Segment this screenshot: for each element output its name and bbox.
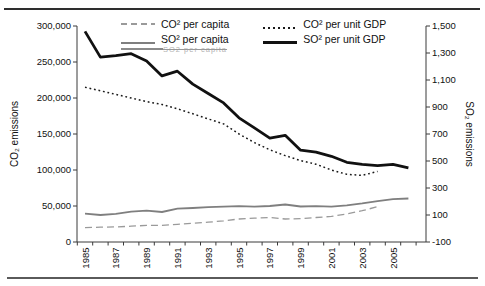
svg-text:1,500: 1,500 [432, 20, 456, 31]
svg-text:1993: 1993 [203, 248, 214, 269]
svg-text:300,000: 300,000 [37, 20, 71, 31]
legend-label: CO² per unit GDP [303, 18, 386, 30]
svg-text:1991: 1991 [172, 248, 183, 269]
svg-text:250,000: 250,000 [37, 56, 71, 67]
svg-text:900: 900 [432, 101, 448, 112]
right-axis-title: SO₂ emissions [464, 101, 475, 167]
svg-text:-100: -100 [432, 236, 451, 247]
svg-text:2001: 2001 [326, 248, 337, 269]
chart-legend: CO² per capita SO² per capita SO2 per ca… [121, 16, 386, 54]
bottom-border-line [7, 277, 478, 279]
svg-text:200,000: 200,000 [37, 92, 71, 103]
svg-text:2003: 2003 [357, 248, 368, 269]
svg-text:300: 300 [432, 182, 448, 193]
svg-text:1987: 1987 [110, 248, 121, 269]
legend-item-hidden: SO2 per capita [121, 44, 229, 54]
legend-item-so2-per-unit-gdp: SO² per unit GDP [263, 31, 386, 46]
gray-line-marker-icon [121, 48, 163, 50]
dotted-line-marker-icon [263, 27, 297, 29]
svg-text:1995: 1995 [234, 248, 245, 269]
figure-page: 300,000250,000200,000150,000100,00050,00… [0, 0, 485, 286]
legend-item-co2-per-capita: CO² per capita [121, 16, 229, 31]
svg-text:2005: 2005 [388, 248, 399, 269]
gray-line-marker-icon [121, 42, 155, 44]
svg-text:500: 500 [432, 155, 448, 166]
legend-label: SO² per unit GDP [303, 33, 385, 45]
svg-text:50,000: 50,000 [42, 200, 71, 211]
legend-column-per-capita: CO² per capita SO² per capita SO2 per ca… [121, 16, 229, 54]
svg-text:100: 100 [432, 209, 448, 220]
svg-text:1985: 1985 [80, 248, 91, 269]
svg-text:1999: 1999 [295, 248, 306, 269]
svg-text:150,000: 150,000 [37, 128, 71, 139]
legend-label: SO² per capita [161, 33, 229, 45]
svg-text:1,300: 1,300 [432, 47, 456, 58]
svg-text:0: 0 [66, 236, 71, 247]
svg-text:700: 700 [432, 128, 448, 139]
svg-text:1,100: 1,100 [432, 74, 456, 85]
legend-label: CO² per capita [161, 18, 229, 30]
left-axis-title: CO₂ emissions [9, 101, 20, 167]
legend-column-per-unit-gdp: CO² per unit GDP SO² per unit GDP [263, 16, 386, 54]
legend-label-struck: SO2 per capita [163, 45, 227, 54]
svg-text:1989: 1989 [141, 248, 152, 269]
dashed-line-marker-icon [121, 23, 155, 25]
svg-text:100,000: 100,000 [37, 164, 71, 175]
svg-text:1997: 1997 [264, 248, 275, 269]
legend-item-co2-per-unit-gdp: CO² per unit GDP [263, 16, 386, 31]
black-line-marker-icon [263, 41, 297, 44]
